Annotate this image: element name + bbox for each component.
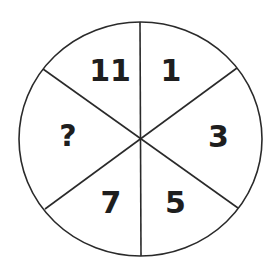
sector-top-left-label: 11 xyxy=(89,53,131,88)
number-wheel-puzzle: 11 1 3 5 7 ? xyxy=(0,0,277,265)
sector-bottom-right-label: 5 xyxy=(165,185,186,220)
sector-bottom-left-label: 7 xyxy=(101,185,122,220)
sector-right-label: 3 xyxy=(208,119,229,154)
sector-top-right-label: 1 xyxy=(161,53,182,88)
sector-left-label: ? xyxy=(59,118,76,153)
